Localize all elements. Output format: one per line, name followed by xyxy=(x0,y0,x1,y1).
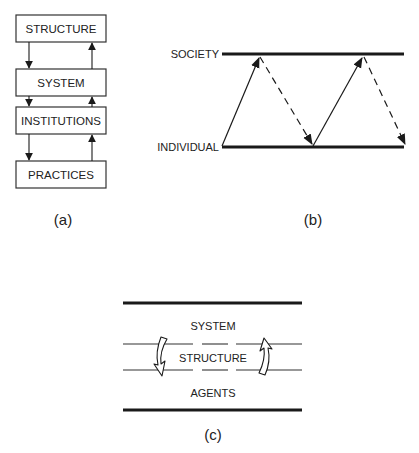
label-structure: STRUCTURE xyxy=(179,352,247,364)
label-agents: AGENTS xyxy=(190,387,235,399)
diagram-c: SYSTEM STRUCTURE AGENTS (c) xyxy=(123,303,302,443)
diagram-a: STRUCTURE SYSTEM INSTITUTIONS PRACTICES … xyxy=(16,15,106,228)
label-individual: INDIVIDUAL xyxy=(157,141,219,153)
caption-b: (b) xyxy=(304,211,322,228)
arrow-up-solid-icon xyxy=(313,58,362,146)
caption-c: (c) xyxy=(204,426,222,443)
box-practices: PRACTICES xyxy=(16,161,106,188)
box-system-label: SYSTEM xyxy=(37,77,84,89)
box-structure-label: STRUCTURE xyxy=(26,23,97,35)
label-system: SYSTEM xyxy=(190,320,235,332)
box-institutions-label: INSTITUTIONS xyxy=(21,115,101,127)
box-system: SYSTEM xyxy=(16,69,106,96)
arrow-down-dashed-icon xyxy=(364,57,405,144)
box-practices-label: PRACTICES xyxy=(28,169,94,181)
box-institutions: INSTITUTIONS xyxy=(16,107,106,134)
label-society: SOCIETY xyxy=(171,48,220,60)
arrow-up-solid-icon xyxy=(222,58,259,146)
arrow-down-dashed-icon xyxy=(260,57,312,144)
figure-canvas: STRUCTURE SYSTEM INSTITUTIONS PRACTICES … xyxy=(0,0,419,453)
caption-a: (a) xyxy=(54,211,72,228)
diagram-b: SOCIETY INDIVIDUAL (b) xyxy=(157,48,405,228)
box-structure: STRUCTURE xyxy=(16,15,106,42)
